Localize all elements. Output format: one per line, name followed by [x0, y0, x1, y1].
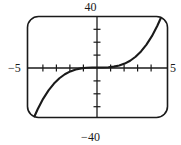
calculator-graph-svg	[0, 0, 181, 145]
x-min-label: −5	[8, 62, 21, 74]
y-min-label: −40	[0, 131, 181, 143]
x-max-label: 5	[170, 62, 176, 74]
y-max-label: 40	[0, 1, 181, 13]
